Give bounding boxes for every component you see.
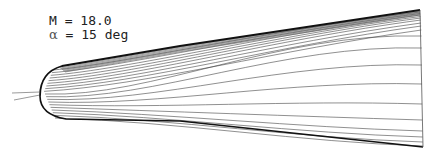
freestream-line-2 [14,95,40,100]
alpha-symbol: α [49,27,58,42]
freestream-line-1 [12,92,40,93]
streamline [46,48,422,97]
streamline [48,84,422,103]
streamline [49,103,422,106]
angle-of-attack-label: α = 15 deg [49,27,128,42]
flow-field-figure: M = 18.0 α = 15 deg [0,0,446,160]
streamline [53,113,423,137]
outflow-boundary [420,10,423,147]
alpha-value: = 15 deg [58,27,128,42]
mach-number-label: M = 18.0 [49,13,112,28]
